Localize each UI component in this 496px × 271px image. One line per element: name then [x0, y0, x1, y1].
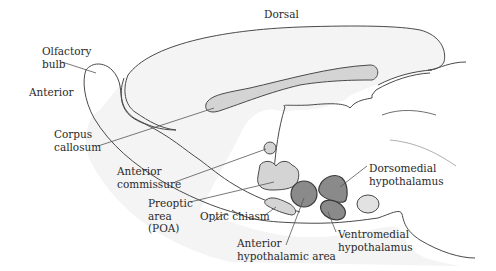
anterior-commissure-label: Anterior commissure — [117, 165, 181, 190]
anterior-hypothalamic-area-label: Anterior hypothalamic area — [237, 237, 336, 262]
preoptic-area-shape — [258, 161, 299, 190]
olfactory-bulb-label: Olfactory bulb — [42, 45, 92, 70]
corpus-callosum-label: Corpus callosum — [54, 128, 101, 153]
optic-chiasm-label: Optic chiasm — [200, 210, 270, 223]
dorsal-label: Dorsal — [264, 8, 299, 21]
anterior-commissure-shape — [264, 142, 276, 154]
mammillary-body-shape — [357, 195, 379, 213]
dorsomedial-hypothalamus-label: Dorsomedial hypothalamus — [369, 162, 444, 187]
dorsomedial-hypothalamus-shape — [319, 176, 347, 203]
anterior-label: Anterior — [29, 86, 74, 99]
brain-sagittal-diagram: Dorsal Anterior Olfactory bulb Corpus ca… — [0, 0, 496, 271]
ventromedial-hypothalamus-label: Ventromedial hypothalamus — [338, 228, 413, 253]
anterior-hypothalamic-area-shape — [291, 181, 317, 207]
preoptic-area-label: Preoptic area (POA) — [148, 197, 193, 235]
